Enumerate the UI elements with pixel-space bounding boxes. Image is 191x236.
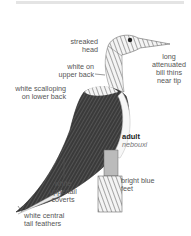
annotation-line: on lower back (4, 93, 66, 101)
annotation-line: upper back (44, 71, 94, 79)
annotation-line: tail feathers (24, 220, 64, 228)
annotation-streaked-head: streaked head (54, 38, 98, 54)
annotation-feet: bright blue feet (121, 177, 155, 193)
age-label-block: adult nebouxi (122, 133, 147, 149)
booby-illustration (0, 0, 191, 236)
annotation-line: head (54, 46, 98, 54)
annotation-lower-back: white scalloping on lower back (4, 85, 66, 101)
annotation-line: coverts (48, 196, 78, 204)
annotation-tail: white central tail feathers (24, 212, 64, 228)
annotation-line: feet (121, 185, 155, 193)
subspecies-label: nebouxi (122, 141, 147, 149)
annotation-upper-back: white on upper back (44, 63, 94, 79)
annotation-bill: long attenuated bill thins near tip (148, 53, 190, 85)
annotation-line: near tip (148, 77, 190, 85)
annotation-coverts: white uppertail coverts (48, 180, 78, 204)
